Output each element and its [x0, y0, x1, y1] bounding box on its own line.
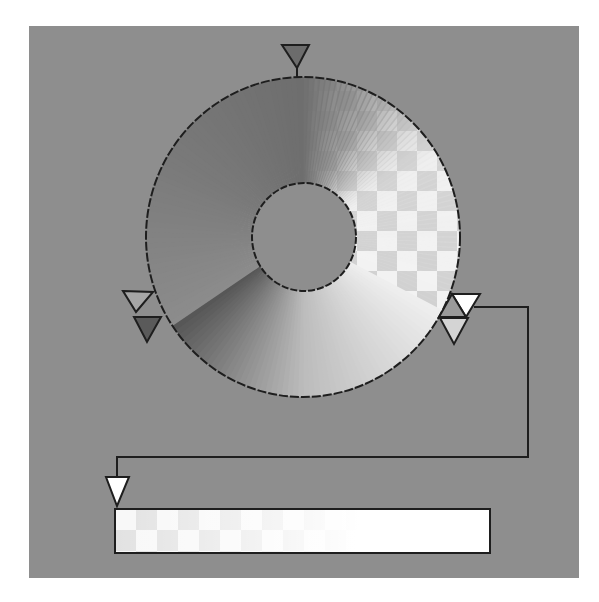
gradient-editor-panel [29, 26, 579, 578]
opacity-preview-bar[interactable] [115, 509, 490, 553]
ring-gradient-wedges [128, 62, 478, 412]
gradient-editor-canvas [29, 26, 579, 578]
preview-bar-stop-marker[interactable] [106, 477, 129, 506]
conic-gradient-ring[interactable] [128, 62, 478, 412]
